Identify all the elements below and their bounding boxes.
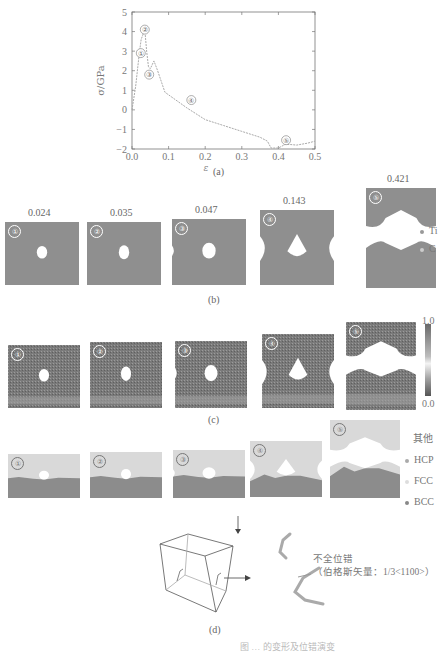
snapshot-number-badge: ③	[178, 344, 191, 357]
snapshot-number-badge: ②	[93, 345, 106, 358]
strain-value-label: 0.047	[195, 204, 218, 215]
panel-b-snapshot-4: ④	[260, 210, 334, 285]
y-tick-label: 5	[122, 7, 127, 18]
snapshot-number-badge: ⑤	[369, 191, 382, 204]
snapshot-number-badge: ④	[263, 213, 276, 226]
point-label: ⑤	[283, 137, 289, 145]
legend-item-fcc: FCC	[405, 470, 434, 491]
y-tick-label: 4	[122, 26, 127, 37]
chart-canvas: 0.00.10.20.30.40.5543210−1−2①②③④⑤εσ/GPa	[0, 0, 440, 180]
point-label: ③	[146, 71, 152, 79]
caption-d: (d)	[209, 624, 221, 635]
fcc-swatch	[405, 480, 409, 484]
x-tick-label: 0.1	[162, 151, 175, 162]
x-tick-label: 0.2	[199, 151, 212, 162]
panel-d-snapshot-2: ②	[90, 452, 162, 498]
panel-b-snapshot-2: ②	[87, 222, 161, 285]
legend-item-hcp: HCP	[405, 449, 434, 470]
x-tick-label: 0.4	[272, 151, 285, 162]
x-tick-label: 0.5	[309, 151, 322, 162]
strain-value-label: 0.024	[28, 207, 51, 218]
dislocation-annotation: 不全位错 （伯格斯矢量：1/3<1100>）	[313, 553, 435, 579]
cut-off-figure-title: 图 … 的变形及位错演变	[240, 640, 335, 653]
snapshot-number-badge: ③	[176, 453, 189, 466]
point-label: ④	[188, 97, 194, 105]
y-tick-label: 3	[122, 46, 127, 57]
colorbar	[425, 324, 431, 396]
x-axis-label: ε	[204, 163, 209, 173]
snapshot-number-badge: ①	[11, 457, 24, 470]
annotation-leader-line	[298, 564, 312, 568]
caption-b: (b)	[208, 294, 220, 305]
panel-c-snapshot-1: ①	[8, 345, 80, 408]
strain-value-label: 0.421	[387, 173, 410, 184]
snapshot-number-badge: ④	[265, 337, 278, 350]
point-label: ②	[142, 26, 148, 34]
snapshot-number-badge: ③	[175, 222, 188, 235]
snapshot-number-badge: ④	[253, 444, 266, 457]
bcc-swatch	[405, 501, 409, 505]
legend-d: 其他 HCP FCC BCC	[405, 428, 434, 512]
panel-d-snapshot-4: ④	[250, 441, 322, 497]
y-tick-label: −1	[116, 124, 127, 135]
y-tick-label: −2	[116, 144, 127, 155]
colorbar-min-label: 0.0	[422, 398, 435, 409]
strain-value-label: 0.035	[110, 207, 133, 218]
caption-c: (c)	[208, 414, 219, 425]
hcp-swatch	[405, 459, 409, 463]
x-tick-label: 0.0	[126, 151, 139, 162]
y-axis-label: σ/GPa	[95, 65, 106, 95]
point-label: ①	[138, 50, 144, 58]
x-tick-label: 0.3	[236, 151, 249, 162]
stress-strain-curve	[132, 30, 315, 148]
y-tick-label: 2	[122, 65, 127, 76]
panel-c-snapshot-5: ⑤	[346, 322, 416, 410]
caption-a: (a)	[213, 166, 224, 177]
y-tick-label: 0	[122, 104, 127, 115]
legend-b: Ti C	[420, 222, 438, 258]
plot-frame	[132, 12, 315, 149]
legend-item-bcc: BCC	[405, 491, 434, 512]
panel-d-snapshot-1: ①	[8, 454, 80, 498]
ti-swatch	[420, 230, 424, 234]
snapshot-number-badge: ②	[93, 455, 106, 468]
legend-item-other: 其他	[405, 428, 434, 449]
panel-c-snapshot-3: ③	[175, 341, 247, 408]
y-tick-label: 1	[122, 85, 127, 96]
stress-strain-chart: 0.00.10.20.30.40.5543210−1−2①②③④⑤εσ/GPa	[0, 0, 440, 180]
snapshot-number-badge: ⑤	[333, 423, 346, 436]
panel-b-snapshot-3: ③	[172, 219, 246, 285]
snapshot-number-badge: ②	[90, 225, 103, 238]
panel-d-snapshot-5: ⑤	[330, 420, 400, 498]
annotation-title: 不全位错	[313, 553, 435, 566]
annotation-burgers-vector: （伯格斯矢量：1/3<1100>）	[313, 566, 435, 579]
c-swatch	[420, 248, 424, 252]
snapshot-number-badge: ①	[11, 348, 24, 361]
panel-c-snapshot-4: ④	[262, 334, 334, 408]
snapshot-number-badge: ⑤	[349, 325, 362, 338]
legend-item-c: C	[420, 240, 438, 258]
legend-item-ti: Ti	[420, 222, 438, 240]
panel-c-snapshot-2: ②	[90, 342, 162, 408]
snapshot-number-badge: ①	[8, 225, 21, 238]
strain-value-label: 0.143	[283, 195, 306, 206]
panel-d-snapshot-3: ③	[173, 450, 245, 498]
panel-b-snapshot-1: ①	[5, 222, 79, 285]
